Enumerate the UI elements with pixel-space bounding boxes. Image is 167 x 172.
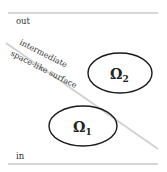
spacetime-diagram: out intermediate space-like surface Ω2 Ω… <box>0 0 167 172</box>
omega2-label: Ω2 <box>110 66 129 84</box>
out-label: out <box>16 16 31 26</box>
in-label: in <box>16 151 25 161</box>
omega1-label: Ω1 <box>73 119 92 137</box>
